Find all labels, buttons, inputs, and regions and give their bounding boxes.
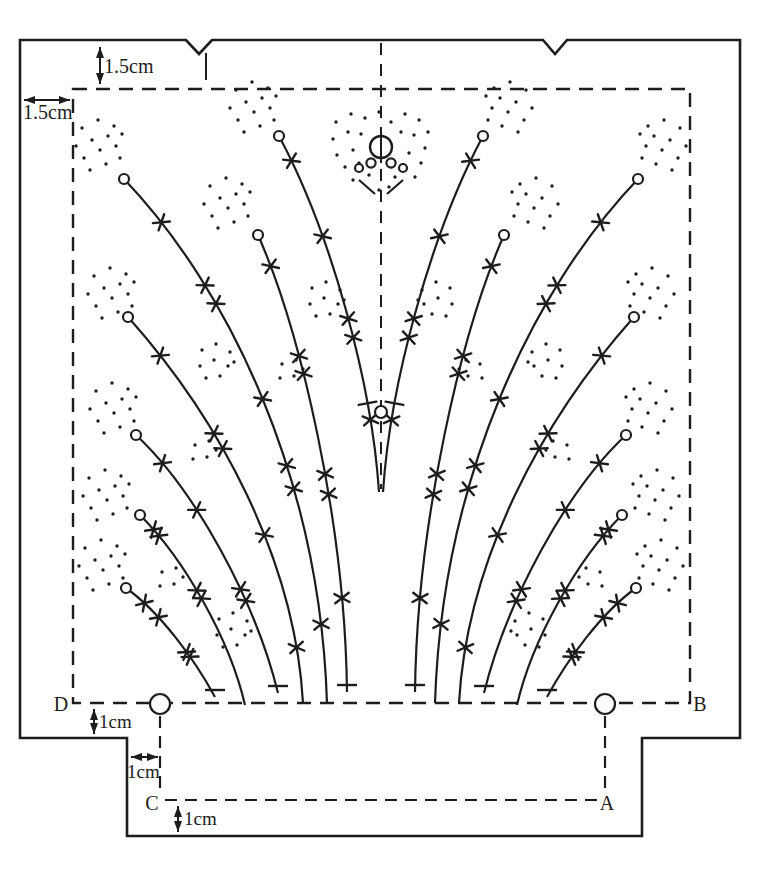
- seed-dot: [638, 132, 641, 135]
- stem-tip-circle: [621, 430, 631, 440]
- seed-dot: [651, 582, 654, 585]
- seed-dot: [647, 512, 650, 515]
- seed-dot: [480, 376, 483, 379]
- seed-dot: [660, 148, 663, 151]
- seed-dot: [403, 112, 406, 115]
- seed-dot: [351, 178, 354, 181]
- seed-dot: [423, 146, 426, 149]
- seed-dot: [191, 457, 194, 460]
- seed-dot: [648, 381, 651, 384]
- seed-dot: [643, 544, 646, 547]
- seed-dot: [508, 80, 511, 83]
- seed-dot: [335, 153, 338, 156]
- seed-dot: [671, 476, 674, 479]
- stitch-x-mark: [205, 433, 222, 434]
- seed-dot: [634, 272, 637, 275]
- seed-dot: [198, 364, 201, 367]
- stem-tip-circle: [121, 583, 131, 593]
- seed-dot: [99, 538, 102, 541]
- seed-dot: [644, 144, 647, 147]
- seed-dot: [529, 627, 532, 630]
- seed-dot: [649, 554, 652, 557]
- seed-dot: [101, 568, 104, 571]
- seed-dot: [172, 582, 175, 585]
- seed-dot: [642, 310, 645, 313]
- seed-dot: [216, 226, 219, 229]
- center-flower-bud: [355, 164, 363, 172]
- seed-dot: [646, 124, 649, 127]
- seed-dot: [548, 214, 551, 217]
- seam-reference-circle: [150, 694, 170, 714]
- seed-dot: [630, 407, 633, 410]
- dim-arrowhead: [131, 753, 142, 761]
- seed-dot: [215, 633, 218, 636]
- seed-dot: [510, 190, 513, 193]
- stitch-x-mark: [254, 397, 271, 400]
- dim-label-left-seam: 1.5cm: [23, 101, 73, 123]
- seed-dot: [116, 310, 119, 313]
- seed-dot: [670, 407, 673, 410]
- seed-dot: [83, 546, 86, 549]
- seed-dot: [506, 110, 509, 113]
- dim-label-top-seam: 1.5cm: [104, 55, 154, 77]
- seed-dot: [420, 288, 423, 291]
- seed-dot: [224, 176, 227, 179]
- seed-dot: [678, 126, 681, 129]
- seed-dot: [95, 518, 98, 521]
- seed-dot: [419, 161, 422, 164]
- seed-dot: [654, 162, 657, 165]
- stitch-x-mark: [188, 590, 205, 591]
- dim-arrowhead: [174, 806, 182, 817]
- seed-dot: [272, 118, 275, 121]
- seed-dot: [96, 419, 99, 422]
- seed-dot: [334, 120, 337, 123]
- stitch-tick: [359, 402, 377, 405]
- seed-dot: [422, 302, 425, 305]
- seed-dot: [132, 419, 135, 422]
- seed-dot: [417, 118, 420, 121]
- seed-dot: [635, 552, 638, 555]
- seed-dot: [228, 350, 231, 353]
- seed-dot: [640, 282, 643, 285]
- stitch-x-mark: [283, 160, 300, 162]
- seed-dot: [278, 376, 281, 379]
- stitch-tick: [386, 402, 404, 405]
- seed-dot: [127, 482, 130, 485]
- seed-dot: [123, 552, 126, 555]
- seed-dot: [670, 168, 673, 171]
- seed-dot: [200, 348, 203, 351]
- seed-dot: [134, 395, 137, 398]
- seed-dot: [117, 564, 120, 567]
- seed-dot: [109, 554, 112, 557]
- seed-dot: [553, 455, 556, 458]
- seed-dot: [577, 575, 580, 578]
- seed-dot: [232, 220, 235, 223]
- seed-dot: [74, 144, 77, 147]
- seed-dot: [226, 206, 229, 209]
- seed-dot: [626, 419, 629, 422]
- seed-dot: [217, 617, 220, 620]
- seed-dot: [363, 116, 366, 119]
- seed-dot: [490, 106, 493, 109]
- seed-dot: [498, 96, 501, 99]
- seed-dot: [662, 419, 665, 422]
- seam-group: [73, 89, 690, 703]
- seed-dot: [676, 156, 679, 159]
- seed-dot: [240, 182, 243, 185]
- seed-dot: [500, 124, 503, 127]
- seed-dot: [598, 570, 601, 573]
- seed-dot: [107, 582, 110, 585]
- seed-dot: [346, 130, 349, 133]
- seed-dot: [118, 156, 121, 159]
- seed-dot: [80, 126, 83, 129]
- seed-dot: [266, 86, 269, 89]
- dim-arrowhead: [96, 73, 104, 84]
- corner-label-a: A: [600, 792, 615, 814]
- seed-dot: [113, 484, 116, 487]
- seed-dot: [77, 564, 80, 567]
- seed-dot: [208, 184, 211, 187]
- seed-dot: [565, 443, 568, 446]
- seed-dot: [554, 376, 557, 379]
- seed-dot: [389, 120, 392, 123]
- dim-arrowhead: [174, 821, 182, 832]
